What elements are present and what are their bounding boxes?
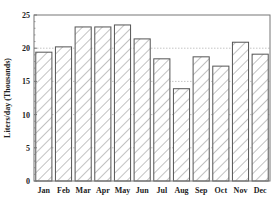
bar-jan [36,52,52,181]
y-tick-label: 15 [22,77,30,86]
bar-feb [55,47,71,181]
bar-chart: 0510152025 JanFebMarAprMayJunJulAugSepOc… [0,0,277,203]
x-tick-label: May [115,186,131,195]
x-tick-label: Jun [136,186,149,195]
y-tick-label: 5 [26,144,30,153]
y-axis-title: Liters/day (Thousands) [3,58,12,138]
x-tick-label: Sep [195,186,208,195]
x-tick-label: Nov [234,186,248,195]
x-tick-label: Jan [38,186,51,195]
y-tick-label: 20 [22,44,30,53]
bar-dec [252,54,268,181]
bar-oct [213,66,229,181]
x-tick-label: Aug [174,186,188,195]
x-tick-label: Feb [57,186,70,195]
bar-may [114,25,130,181]
bar-jul [154,59,170,181]
bar-aug [173,89,189,181]
y-axis: 0510152025 [22,11,37,186]
x-axis: JanFebMarAprMayJunJulAugSepOctNovDec [38,186,267,195]
x-tick-label: Dec [254,186,267,195]
x-tick-label: Apr [96,186,110,195]
bar-nov [232,42,248,181]
bar-jun [134,39,150,181]
x-tick-label: Mar [76,186,92,195]
x-tick-label: Jul [156,186,167,195]
y-tick-label: 25 [22,11,30,20]
y-tick-label: 0 [26,177,30,186]
bar-apr [95,27,111,181]
x-tick-label: Oct [215,186,228,195]
bar-mar [75,27,91,181]
bar-sep [193,57,209,181]
y-tick-label: 10 [22,111,30,120]
